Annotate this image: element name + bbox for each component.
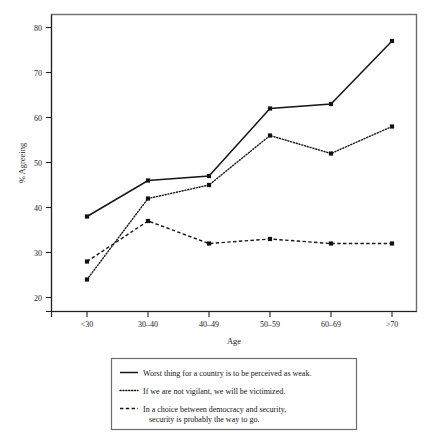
legend-label-2a: In a choice between democracy and securi… xyxy=(143,405,286,414)
legend-label-0: Worst thing for a country is to be perce… xyxy=(143,369,311,378)
y-tick-label-20: 20 xyxy=(34,294,42,303)
x-tick-label-4: 60–69 xyxy=(321,320,341,329)
data-point xyxy=(329,241,333,245)
data-point xyxy=(146,178,150,182)
y-tick-label-30: 30 xyxy=(34,249,42,258)
data-point xyxy=(85,214,89,218)
data-point xyxy=(85,277,89,281)
data-point xyxy=(329,151,333,155)
series-dashed xyxy=(85,219,394,264)
y-tick-label-50: 50 xyxy=(34,159,42,168)
series-layer xyxy=(85,39,394,282)
data-point xyxy=(207,174,211,178)
data-point xyxy=(268,133,272,137)
x-axis-title: Age xyxy=(227,336,241,346)
legend-label-2b: security is probably the way to go. xyxy=(149,415,259,424)
series-line-0 xyxy=(87,41,392,217)
data-point xyxy=(146,196,150,200)
x-tick-label-2: 40–49 xyxy=(199,320,219,329)
data-point xyxy=(85,259,89,263)
legend-entry-1: If we are not vigilant, we will be victi… xyxy=(120,387,285,396)
x-tick-label-1: 30–40 xyxy=(138,320,158,329)
y-tick-label-40: 40 xyxy=(34,204,42,213)
chart-figure: 80 70 60 50 40 30 20 % Agreeing <30 30–4… xyxy=(0,0,435,443)
series-line-2 xyxy=(87,221,392,262)
data-point xyxy=(329,102,333,106)
data-point xyxy=(268,106,272,110)
y-axis-ticks: 80 70 60 50 40 30 20 xyxy=(34,24,52,303)
x-tick-label-5: >70 xyxy=(386,320,399,329)
data-point xyxy=(146,219,150,223)
data-point xyxy=(268,237,272,241)
legend-label-1: If we are not vigilant, we will be victi… xyxy=(143,387,285,396)
chart-legend: Worst thing for a country is to be perce… xyxy=(112,359,357,430)
data-point xyxy=(390,39,394,43)
x-tick-label-3: 50–59 xyxy=(260,320,280,329)
legend-entry-0: Worst thing for a country is to be perce… xyxy=(120,369,311,378)
y-axis-title: % Agreeing xyxy=(17,142,27,183)
series-solid xyxy=(85,39,394,219)
series-line-1 xyxy=(87,127,392,280)
data-point xyxy=(390,124,394,128)
x-tick-label-0: <30 xyxy=(81,320,94,329)
data-point xyxy=(390,241,394,245)
data-point xyxy=(207,183,211,187)
data-point xyxy=(207,241,211,245)
y-tick-label-80: 80 xyxy=(34,24,42,33)
plot-frame xyxy=(52,15,417,312)
y-tick-label-60: 60 xyxy=(34,114,42,123)
line-chart: 80 70 60 50 40 30 20 % Agreeing <30 30–4… xyxy=(0,0,435,443)
y-tick-label-70: 70 xyxy=(34,69,42,78)
series-dotted xyxy=(85,124,394,281)
x-axis-ticks: <30 30–40 40–49 50–59 60–69 >70 xyxy=(81,312,399,330)
